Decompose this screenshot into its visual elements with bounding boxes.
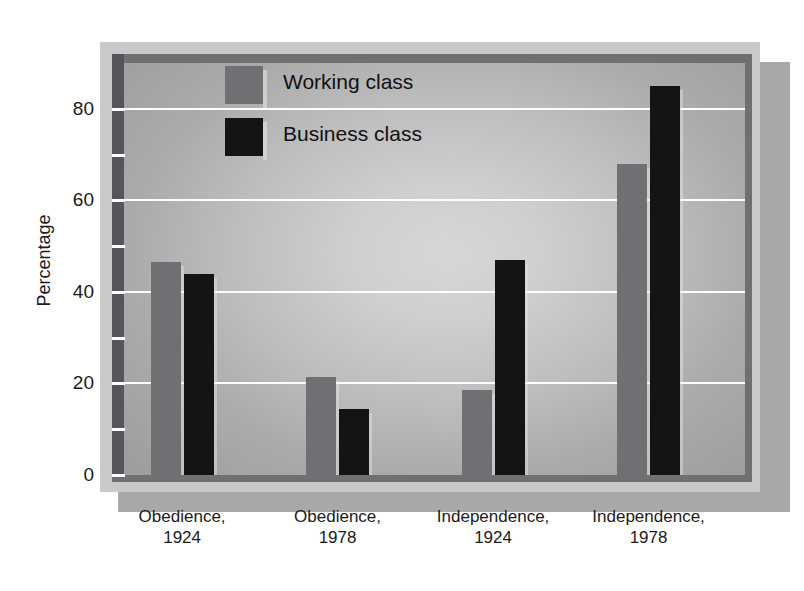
y-tick-label-60: 60	[48, 190, 94, 209]
y-tick-20	[112, 382, 125, 385]
x-tick-label-line1: Obedience,	[258, 506, 418, 527]
bar-working-class-1	[306, 377, 336, 475]
bar-chart-figure: 020406080 Percentage Obedience,1924Obedi…	[0, 0, 804, 591]
legend-item-business: Business class	[225, 114, 525, 166]
x-tick-label-line2: 1924	[413, 527, 573, 548]
y-tick-80	[112, 108, 125, 111]
bar-business-class-2	[495, 260, 525, 475]
x-tick-label-1: Obedience,1978	[258, 506, 418, 549]
bar-business-class-1	[339, 409, 369, 475]
legend-swatch-business-icon	[225, 118, 263, 156]
legend-swatch-working-icon	[225, 66, 263, 104]
y-tick-label-0: 0	[48, 465, 94, 484]
y-tick-label-20: 20	[48, 373, 94, 392]
x-tick-labels: Obedience,1924Obedience,1978Independence…	[123, 506, 745, 576]
y-tick-60	[112, 199, 125, 202]
bar-working-class-3	[617, 164, 647, 475]
y-tick-30	[112, 337, 125, 340]
x-tick-label-0: Obedience,1924	[102, 506, 262, 549]
bar-business-class-3	[650, 86, 680, 475]
legend-item-working: Working class	[225, 62, 525, 114]
x-tick-label-line1: Independence,	[413, 506, 573, 527]
x-tick-label-3: Independence,1978	[569, 506, 729, 549]
y-axis-spine	[112, 54, 124, 475]
x-tick-label-line2: 1924	[102, 527, 262, 548]
y-tick-50	[112, 245, 125, 248]
y-tick-40	[112, 291, 125, 294]
legend-label-working: Working class	[283, 70, 413, 94]
y-tick-label-80: 80	[48, 99, 94, 118]
y-tick-0	[112, 474, 125, 477]
chart-legend: Working classBusiness class	[225, 62, 525, 166]
bar-working-class-2	[462, 390, 492, 475]
y-tick-70	[112, 154, 125, 157]
y-axis-title: Percentage	[34, 181, 55, 341]
y-tick-10	[112, 428, 125, 431]
x-tick-label-2: Independence,1924	[413, 506, 573, 549]
x-tick-label-line2: 1978	[569, 527, 729, 548]
bar-business-class-0	[184, 274, 214, 475]
x-tick-label-line1: Obedience,	[102, 506, 262, 527]
legend-label-business: Business class	[283, 122, 422, 146]
y-tick-label-40: 40	[48, 282, 94, 301]
x-tick-label-line2: 1978	[258, 527, 418, 548]
bar-working-class-0	[151, 262, 181, 475]
x-tick-label-line1: Independence,	[569, 506, 729, 527]
